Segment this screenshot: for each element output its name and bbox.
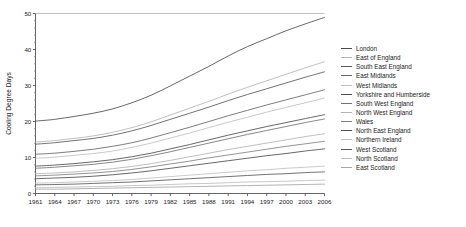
legend-color-swatch [341,48,352,49]
legend-color-swatch [341,130,352,131]
x-tick-label: 1961 [29,198,43,205]
legend-item-label: East of England [356,53,400,62]
legend-item-label: North East England [356,126,411,135]
y-axis-title: Cooling Degree Days [5,71,13,134]
legend-item[interactable]: West Scotland [341,145,466,154]
x-tick-label: 1988 [202,198,216,205]
legend-color-swatch [341,139,352,140]
legend-item-label: West Scotland [356,145,396,154]
legend-item[interactable]: North West England [341,108,466,117]
x-tick-label: 1979 [144,198,158,205]
x-tick-label: 1967 [67,198,81,205]
chart-legend: LondonEast of EnglandSouth East EnglandE… [341,44,466,172]
legend-color-swatch [341,158,352,159]
x-tick-label: 2003 [298,198,312,205]
y-tick-label: 30 [24,82,31,89]
x-tick-label: 1970 [86,198,100,205]
series-line [36,166,325,183]
legend-item[interactable]: South East England [341,62,466,71]
y-tick-label: 0 [28,190,32,197]
legend-item-label: North West England [356,108,412,117]
y-tick-label: 10 [24,154,31,161]
legend-item-label: East Midlands [356,71,396,80]
series-line [36,90,325,154]
legend-item[interactable]: West Midlands [341,81,466,90]
x-tick-label: 1982 [163,198,177,205]
x-tick-label: 1976 [125,198,139,205]
x-tick-label: 1991 [221,198,235,205]
series-line [36,72,325,144]
legend-color-swatch [341,57,352,58]
legend-color-swatch [341,112,352,113]
legend-item-label: South East England [356,62,412,71]
legend-color-swatch [341,149,352,150]
legend-color-swatch [341,103,352,104]
series-line [36,17,325,121]
legend-item[interactable]: East Midlands [341,71,466,80]
legend-item-label: Yorkshire and Humberside [356,90,430,99]
legend-item-label: Northern Ireland [356,135,402,144]
series-line [36,119,325,168]
legend-color-swatch [341,85,352,86]
legend-item-label: East Scotland [356,163,395,172]
legend-item-label: West Midlands [356,81,397,90]
x-tick-label: 1997 [260,198,274,205]
legend-item[interactable]: Yorkshire and Humberside [341,90,466,99]
legend-color-swatch [341,121,352,122]
legend-item[interactable]: Wales [341,117,466,126]
x-tick-label: 2006 [318,198,332,205]
legend-item-label: South West England [356,99,413,108]
y-tick-label: 50 [24,10,31,17]
y-tick-label: 40 [24,46,31,53]
legend-item[interactable]: South West England [341,99,466,108]
legend-item[interactable]: East of England [341,53,466,62]
legend-item[interactable]: North Scotland [341,154,466,163]
legend-item[interactable]: Northern Ireland [341,135,466,144]
legend-color-swatch [341,66,352,67]
legend-item-label: Wales [356,117,373,126]
x-tick-label: 1964 [48,198,62,205]
x-tick-label: 1973 [106,198,120,205]
legend-item-label: North Scotland [356,154,398,163]
legend-color-swatch [341,94,352,95]
x-tick-label: 1985 [183,198,197,205]
legend-item[interactable]: London [341,44,466,53]
x-tick-label: 1994 [241,198,255,205]
legend-color-swatch [341,167,352,168]
legend-color-swatch [341,75,352,76]
legend-item[interactable]: North East England [341,126,466,135]
x-tick-label: 2000 [279,198,293,205]
y-tick-label: 20 [24,118,31,125]
legend-item-label: London [356,44,377,53]
chart-figure: 0102030405019611964196719701973197619791… [0,0,466,227]
legend-item[interactable]: East Scotland [341,163,466,172]
